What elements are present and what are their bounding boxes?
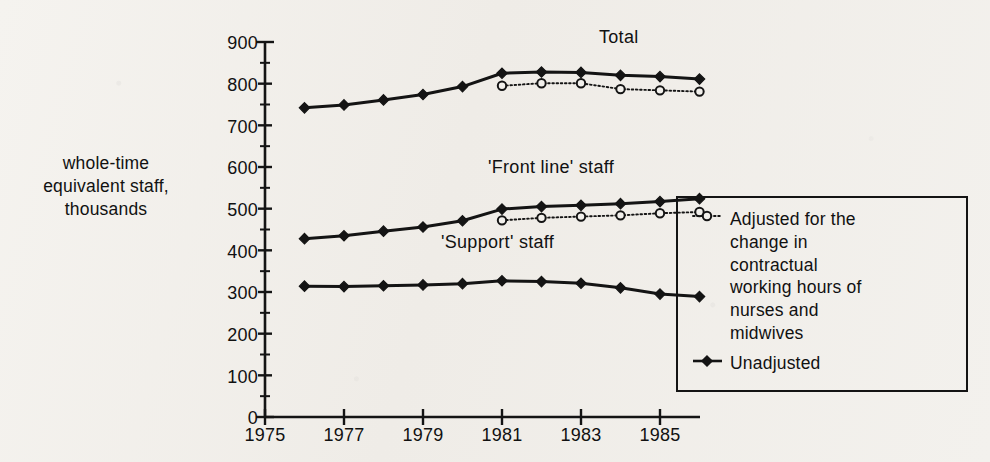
line-chart-figure: whole-time equivalent staff, thousands 9… xyxy=(0,0,990,462)
data-point-marker xyxy=(457,216,467,226)
data-point-marker xyxy=(616,85,624,93)
legend-label-adjusted: Adjusted for the change in contractual w… xyxy=(730,208,958,345)
series-line-1 xyxy=(502,83,700,91)
data-point-marker xyxy=(299,281,309,291)
data-point-marker xyxy=(616,211,624,219)
data-point-marker xyxy=(299,103,309,113)
data-point-marker xyxy=(656,86,664,94)
legend-adjusted-line-2: change in xyxy=(730,231,958,254)
data-point-marker xyxy=(615,198,625,208)
legend-adjusted-line-3: contractual xyxy=(730,254,958,277)
legend-adjusted-line-4: working hours of xyxy=(730,276,958,299)
data-point-marker xyxy=(457,81,467,91)
data-point-marker xyxy=(615,283,625,293)
data-point-marker xyxy=(537,214,545,222)
legend-label-unadjusted: Unadjusted xyxy=(730,352,821,375)
data-point-marker xyxy=(656,209,664,217)
data-point-marker xyxy=(457,278,467,288)
data-point-marker xyxy=(418,89,428,99)
legend-adjusted-line-5: nurses and xyxy=(730,299,958,322)
data-point-marker xyxy=(339,281,349,291)
data-point-marker xyxy=(498,216,506,224)
data-point-marker xyxy=(577,212,585,220)
data-point-marker xyxy=(497,276,507,286)
data-point-marker xyxy=(655,71,665,81)
data-point-marker xyxy=(536,276,546,286)
data-point-marker xyxy=(576,278,586,288)
series-line-3 xyxy=(502,212,700,220)
data-point-marker xyxy=(378,281,388,291)
data-point-marker xyxy=(418,222,428,232)
data-point-marker xyxy=(418,280,428,290)
data-point-marker xyxy=(536,67,546,77)
data-point-marker xyxy=(577,79,585,87)
legend-adjusted-line-6: midwives xyxy=(730,322,958,345)
data-point-marker xyxy=(536,201,546,211)
data-point-marker xyxy=(498,82,506,90)
data-point-marker xyxy=(497,204,507,214)
data-point-marker xyxy=(497,68,507,78)
data-point-marker xyxy=(339,100,349,110)
data-point-marker xyxy=(615,70,625,80)
data-point-marker xyxy=(694,74,704,84)
data-point-marker xyxy=(339,231,349,241)
data-point-marker xyxy=(576,200,586,210)
data-point-marker xyxy=(537,79,545,87)
data-point-marker xyxy=(378,226,388,236)
data-point-marker xyxy=(655,196,665,206)
legend-adjusted-line-1: Adjusted for the xyxy=(730,208,958,231)
data-point-marker xyxy=(576,67,586,77)
data-point-marker xyxy=(378,95,388,105)
data-point-marker xyxy=(695,87,703,95)
data-point-marker xyxy=(299,233,309,243)
data-point-marker xyxy=(655,289,665,299)
